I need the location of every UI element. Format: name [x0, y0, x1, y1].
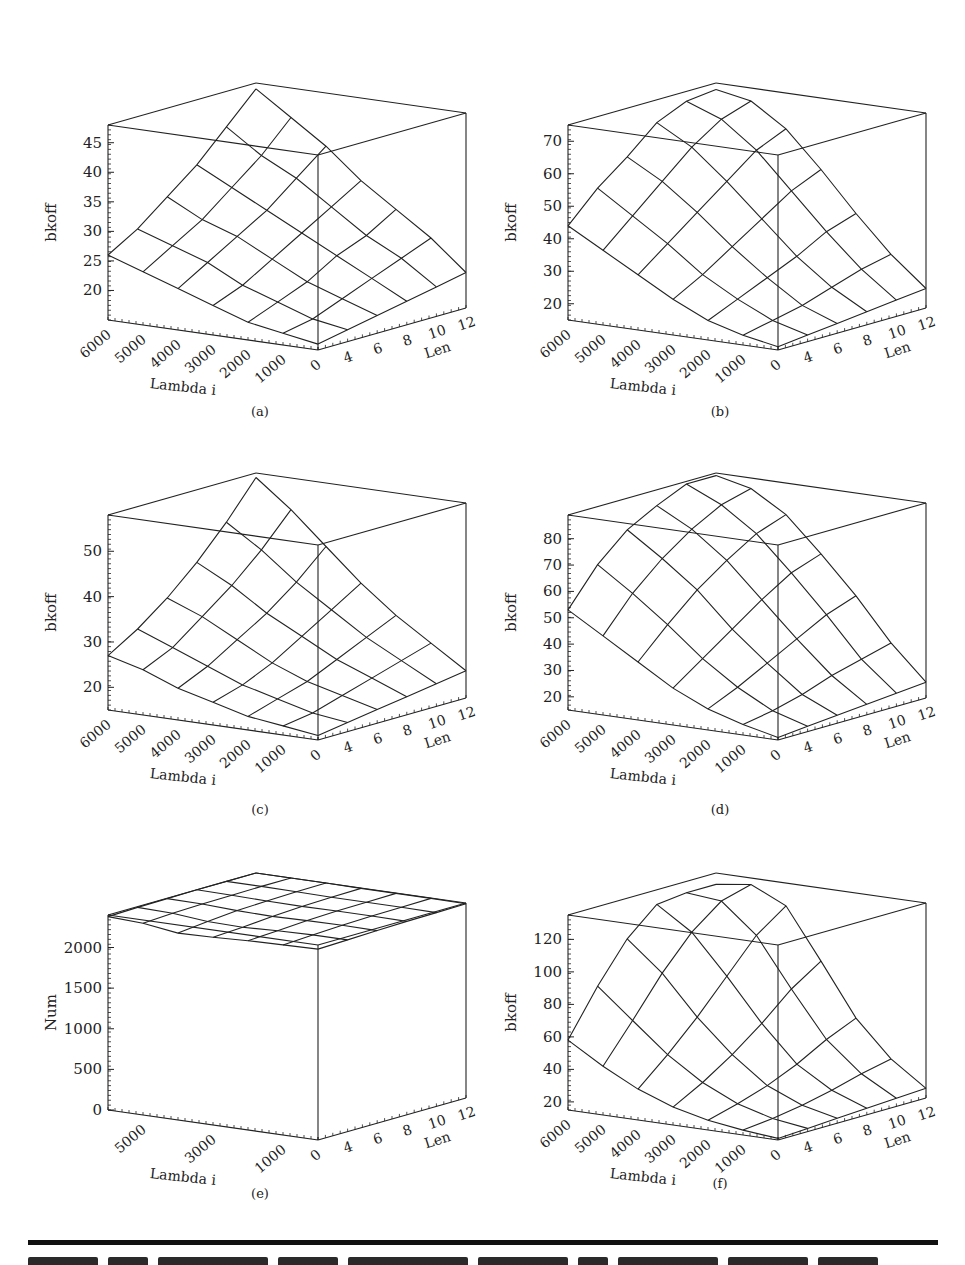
z-tick-label: 2000 [64, 939, 102, 957]
x-tick-label: 0 [307, 1146, 324, 1164]
z-tick-label: 60 [543, 582, 562, 600]
x-tick-label: 2000 [676, 736, 714, 771]
x-tick-label: 1000 [711, 741, 749, 776]
wireframe-surface [108, 873, 466, 1140]
x-tick-label: 3000 [641, 1131, 679, 1166]
y-axis-label: Len [882, 1128, 912, 1151]
x-tick-label: 6000 [76, 326, 114, 361]
y-tick-label: 8 [861, 1121, 874, 1139]
x-tick-label: 2000 [676, 346, 714, 381]
z-tick-label: 50 [83, 542, 102, 560]
panel-caption-e: (e) [40, 1186, 480, 1201]
figure-divider-rule [28, 1240, 938, 1245]
z-tick-label: 120 [533, 930, 562, 948]
x-tick-label: 3000 [181, 1131, 219, 1166]
y-tick-label: 12 [916, 1103, 938, 1124]
z-tick-label: 70 [543, 556, 562, 574]
x-tick-label: 6000 [76, 716, 114, 751]
y-tick-label: 4 [801, 1138, 815, 1156]
x-tick-label: 2000 [216, 736, 254, 771]
x-tick-label: 1000 [711, 351, 749, 386]
y-tick-label: 6 [371, 729, 385, 747]
x-tick-label: 4000 [146, 726, 184, 761]
y-tick-label: 6 [831, 339, 845, 357]
z-tick-label: 30 [543, 262, 562, 280]
x-axis-label: Lambda i [609, 765, 677, 788]
x-tick-label: 4000 [606, 1126, 644, 1161]
y-axis-label: Len [882, 728, 912, 751]
x-tick-label: 5000 [571, 1121, 609, 1156]
y-tick-label: 4 [801, 738, 815, 756]
y-tick-label: 4 [341, 1138, 355, 1156]
x-tick-label: 0 [767, 1146, 784, 1164]
y-tick-label: 12 [456, 313, 478, 334]
z-tick-label: 30 [83, 222, 102, 240]
y-tick-label: 6 [371, 339, 385, 357]
x-tick-label: 4000 [146, 336, 184, 371]
surface-plot-a: 2025303540456000500040003000200010000468… [40, 60, 480, 405]
x-axis-label: Lambda i [609, 375, 677, 398]
z-tick-label: 40 [543, 635, 562, 653]
surface-plot-d: 2030405060708060005000400030002000100004… [500, 450, 940, 795]
z-axis-label: Num [42, 994, 60, 1031]
z-tick-label: 20 [83, 281, 102, 299]
y-axis-label: Len [422, 1128, 452, 1151]
z-tick-label: 20 [543, 1093, 562, 1111]
x-tick-label: 3000 [181, 341, 219, 376]
y-tick-label: 8 [861, 721, 874, 739]
z-axis-label: bkoff [502, 992, 520, 1032]
z-tick-label: 40 [83, 588, 102, 606]
z-tick-label: 30 [543, 661, 562, 679]
panel-caption-b: (b) [500, 404, 940, 419]
surface-plot-c: 2030405060005000400030002000100004681012… [40, 450, 480, 795]
z-axis-label: bkoff [42, 202, 60, 242]
x-tick-label: 6000 [536, 326, 574, 361]
x-tick-label: 3000 [181, 731, 219, 766]
z-tick-label: 1500 [64, 979, 102, 997]
figure-caption-truncated [28, 1256, 938, 1265]
x-tick-label: 5000 [111, 1121, 149, 1156]
x-tick-label: 0 [307, 746, 324, 764]
z-tick-label: 80 [543, 530, 562, 548]
y-tick-label: 8 [401, 1121, 414, 1139]
wireframe-surface [568, 83, 926, 350]
y-axis-label: Len [422, 728, 452, 751]
panel-caption-c: (c) [40, 802, 480, 817]
z-tick-label: 40 [83, 163, 102, 181]
z-axis-label: bkoff [42, 592, 60, 632]
z-tick-label: 45 [83, 134, 102, 152]
x-tick-label: 5000 [111, 331, 149, 366]
z-axis-label: bkoff [502, 202, 520, 242]
y-tick-label: 8 [401, 331, 414, 349]
x-tick-label: 0 [767, 356, 784, 374]
z-tick-label: 20 [83, 678, 102, 696]
surface-plot-f: 2040608010012060005000400030002000100004… [500, 850, 940, 1195]
x-axis-label: Lambda i [149, 765, 217, 788]
y-tick-label: 4 [801, 348, 815, 366]
z-tick-label: 70 [543, 132, 562, 150]
x-tick-label: 1000 [251, 1141, 289, 1176]
chart-panel-f: 2040608010012060005000400030002000100004… [500, 850, 940, 1230]
chart-panel-e: 050010001500200050003000100004681012NumL… [40, 850, 480, 1230]
x-tick-label: 6000 [536, 1116, 574, 1151]
wireframe-surface [568, 873, 926, 1140]
chart-panel-c: 2030405060005000400030002000100004681012… [40, 450, 480, 830]
x-tick-label: 2000 [216, 346, 254, 381]
y-axis-label: Len [422, 338, 452, 361]
panel-caption-f: (f) [500, 1176, 940, 1191]
z-tick-label: 50 [543, 609, 562, 627]
z-axis-label: bkoff [502, 592, 520, 632]
y-tick-label: 12 [456, 1103, 478, 1124]
panel-caption-a: (a) [40, 404, 480, 419]
x-tick-label: 1000 [251, 741, 289, 776]
y-tick-label: 6 [831, 729, 845, 747]
z-tick-label: 25 [83, 252, 102, 270]
x-tick-label: 5000 [111, 721, 149, 756]
wireframe-surface [108, 83, 466, 350]
x-tick-label: 4000 [606, 336, 644, 371]
z-tick-label: 35 [83, 193, 102, 211]
x-tick-label: 2000 [676, 1136, 714, 1171]
x-tick-label: 3000 [641, 341, 679, 376]
x-tick-label: 3000 [641, 731, 679, 766]
wireframe-surface [108, 473, 466, 740]
